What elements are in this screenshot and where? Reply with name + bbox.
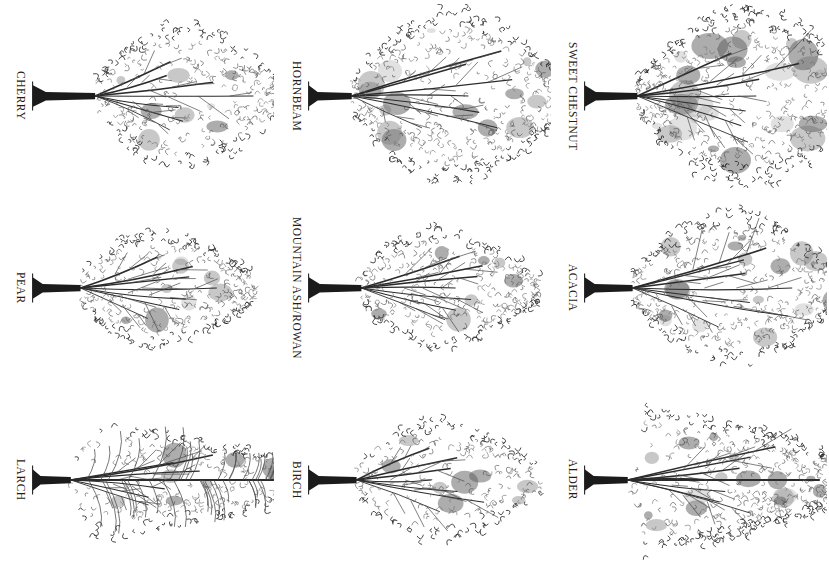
tree-figure-cell: BIRCH (276, 384, 552, 576)
tree-illustration (32, 196, 275, 380)
tree-illustration (308, 4, 551, 188)
tree-label: ACACIA (567, 264, 579, 311)
tree-illustration (32, 4, 275, 188)
tree-label: MOUNTAIN ASH/ROWAN (290, 217, 302, 359)
tree-figure-cell: PEAR (0, 192, 276, 384)
tree-illustration (584, 4, 827, 188)
tree-figure-cell: HORNBEAM (276, 0, 552, 192)
tree-label: PEAR (14, 272, 26, 304)
tree-illustration (308, 388, 551, 572)
tree-illustration (32, 388, 275, 572)
tree-label: BIRCH (290, 461, 302, 499)
tree-figure-cell: ALDER (553, 384, 829, 576)
tree-figure-cell: SWEET CHESTNUT (553, 0, 829, 192)
tree-label: SWEET CHESTNUT (567, 42, 579, 151)
tree-label: CHERRY (14, 71, 26, 120)
tree-label: ALDER (567, 459, 579, 500)
tree-figure-cell: ACACIA (553, 192, 829, 384)
tree-label: HORNBEAM (290, 61, 302, 131)
tree-identification-plate: CHERRYHORNBEAMSWEET CHESTNUTPEARMOUNTAIN… (0, 0, 829, 576)
tree-figure-cell: LARCH (0, 384, 276, 576)
tree-illustration (308, 196, 551, 380)
tree-figure-cell: CHERRY (0, 0, 276, 192)
tree-illustration (584, 388, 827, 572)
tree-label: LARCH (14, 459, 26, 501)
figure-grid: CHERRYHORNBEAMSWEET CHESTNUTPEARMOUNTAIN… (0, 0, 829, 576)
tree-illustration (584, 196, 827, 380)
tree-figure-cell: MOUNTAIN ASH/ROWAN (276, 192, 552, 384)
